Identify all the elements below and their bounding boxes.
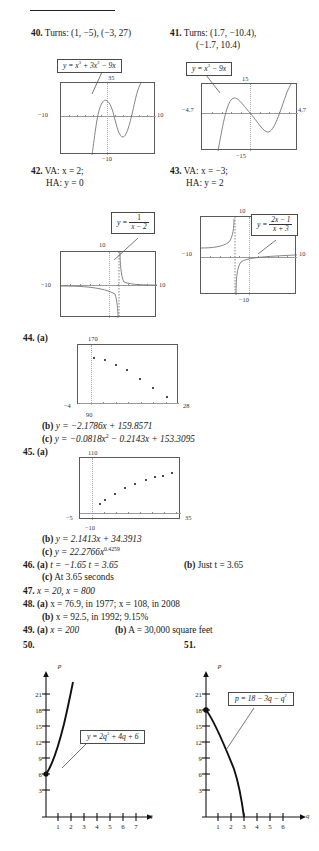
scatter-point	[104, 359, 106, 361]
answer-47-text: x = 20, x = 800	[37, 586, 95, 596]
graph-50-xtick: 4	[92, 823, 102, 830]
graph-50-ytick: 21	[24, 691, 42, 698]
scatter-point	[104, 499, 106, 501]
answer-44-part-b-text: y = −2.1786x + 159.8571	[56, 421, 153, 431]
answer-43: 43. VA: x = −3;	[170, 166, 228, 178]
answer-45-part-c-pre: y = 22.2766x	[55, 547, 104, 557]
graph-41-tick-right: 4.7	[298, 106, 306, 113]
answer-45-part-c-sup: 0.4259	[104, 546, 120, 552]
graph-50-ytick: 12	[24, 739, 42, 746]
graph-50-xtick: 6	[118, 823, 128, 830]
callout-graph-43: y = 2x − 1x + 3	[251, 214, 298, 236]
graph-43-tick-top: 10	[239, 207, 245, 214]
callout-graph-41: y = x3 − 9x	[186, 62, 232, 76]
scatter-point	[99, 503, 101, 505]
answer-45-part-b-text: y = 2.1413x + 34.3913	[56, 534, 142, 544]
graph-42-tick-top: 10	[99, 241, 105, 248]
graph-50-ytick: 3	[24, 787, 42, 794]
scatter-point	[115, 364, 117, 366]
answer-49-part-b-label: (b)	[115, 625, 126, 635]
graph-42-curve	[61, 252, 157, 318]
answer-44-part-a-label: (a)	[37, 333, 48, 343]
callout-graph-42: y = 1x − 2	[111, 212, 155, 234]
answer-40: 40. Turns: (1, −5), (−3, 27)	[31, 28, 131, 40]
scatter-point	[162, 475, 164, 477]
answer-42-line1: VA: x = 2;	[45, 166, 84, 176]
answer-43-line2-wrap: HA: y = 2	[186, 178, 224, 190]
graph-51-ytick: 9	[184, 755, 202, 762]
answer-46-part-b-text: Just t = 3.65	[198, 560, 244, 570]
graph-50-xtick: 7	[131, 823, 141, 830]
graph-51-ytick: 18	[184, 707, 202, 714]
graph-41-tick-left: −4.7	[182, 106, 194, 113]
graph-42-screen	[60, 251, 156, 317]
answer-42-line2: HA: y = 0	[46, 178, 84, 188]
graph-51-ylabel: p	[218, 662, 221, 669]
scatter-point	[114, 493, 116, 495]
answer-47: 47. x = 20, x = 800	[23, 586, 95, 598]
graph-44-y-axis	[91, 345, 92, 405]
graph-51-xtick: 4	[252, 823, 262, 830]
answer-43-number: 43.	[170, 166, 182, 176]
answer-50-number: 50.	[23, 640, 35, 650]
answer-45-part-a-label: (a)	[37, 447, 48, 457]
answer-48: 48. (a) x = 76.9, in 1977; x = 108, in 2…	[23, 599, 180, 611]
graph-50-ytick: 15	[24, 723, 42, 730]
graph-40-tick-right: 10	[157, 111, 163, 118]
graph-42-tick-left: −10	[41, 281, 51, 288]
graph-44-tick-left: −4	[64, 402, 71, 409]
callout-43-denominator: x + 3	[269, 225, 292, 233]
answer-48-part-a-label: (a)	[37, 599, 48, 609]
header-rule	[30, 10, 115, 11]
graph-43-tick-left: −10	[182, 250, 192, 257]
answer-46-part-a-label: (a)	[37, 560, 48, 570]
callout-40-post: − 9x	[99, 61, 115, 70]
callout-43-pre: y =	[257, 220, 269, 229]
answer-49-part-b-text: A = 30,000 square feet	[128, 625, 213, 635]
scatter-point	[166, 396, 168, 398]
callout-41-pre: y = x	[192, 64, 208, 73]
answer-46-part-c-text: At 3.65 seconds	[54, 572, 114, 582]
leader-line-43	[258, 240, 276, 254]
scatter-point	[145, 479, 147, 481]
answer-46: 46. (a) t = −1.65 t = 3.65	[23, 560, 118, 572]
answer-46-part-c: (c) At 3.65 seconds	[42, 572, 114, 584]
callout-43-numerator: 2x − 1	[269, 216, 292, 225]
answer-44: 44. (a)	[23, 333, 48, 345]
answer-48-number: 48.	[23, 599, 35, 609]
answer-49-part-a-text: x = 200	[50, 625, 79, 635]
callout-42-numerator: 1	[129, 214, 148, 223]
graph-51-xtick: 5	[265, 823, 275, 830]
answer-45-part-c-label: (c)	[42, 547, 52, 557]
answer-42-line2-wrap: HA: y = 0	[46, 178, 84, 190]
callout-50-pre: y = 2q	[87, 732, 107, 741]
callout-graph-50: y = 2q2 + 4q + 6	[80, 730, 145, 744]
answer-44-part-b: (b) y = −2.1786x + 159.8571	[42, 421, 153, 433]
answer-45: 45. (a)	[23, 447, 48, 459]
answer-46-part-b-label: (b)	[184, 560, 195, 570]
answer-49-part-b: (b) A = 30,000 square feet	[115, 625, 213, 637]
graph-50-ytick: 6	[24, 771, 42, 778]
answer-42: 42. VA: x = 2;	[31, 166, 84, 178]
answer-41-number: 41.	[170, 28, 182, 38]
callout-graph-51: p = 18 − 3q − q2	[228, 692, 294, 706]
answer-44-number: 44.	[23, 333, 35, 343]
answer-44-part-c: (c) y = −0.0818x2 − 0.2143x + 153.3095	[42, 434, 195, 446]
graph-50-xlabel: q	[149, 812, 152, 819]
graph-43-tick-right: 10	[299, 250, 305, 257]
answer-43-line2: HA: y = 2	[186, 178, 224, 188]
callout-42-denominator: x − 2	[129, 223, 148, 231]
graph-45-screen	[79, 457, 180, 519]
scatter-point	[152, 387, 154, 389]
answer-46-part-a-text: t = −1.65 t = 3.65	[50, 560, 118, 570]
graph-44-tick-right: 28	[183, 402, 189, 409]
answer-41-line1: Turns: (1.7, −10.4),	[184, 28, 257, 38]
answer-40-text: Turns: (1, −5), (−3, 27)	[45, 28, 131, 38]
callout-43-fraction: 2x − 1x + 3	[269, 216, 292, 234]
callout-51-sup1: 2	[285, 693, 287, 698]
graph-41-tick-bottom: −15	[236, 152, 246, 159]
answer-46-part-b: (b) Just t = 3.65	[184, 560, 243, 572]
answer-51-number: 51.	[184, 640, 196, 650]
graph-45-tick-bottom: −10	[85, 524, 95, 531]
answer-44-part-b-label: (b)	[42, 421, 53, 431]
